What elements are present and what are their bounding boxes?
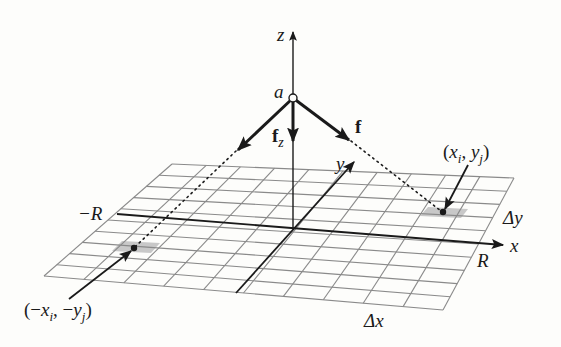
delta-y-label: Δy: [502, 207, 523, 228]
f-vector-mirror: [238, 98, 293, 150]
neg-R-label: −R: [78, 203, 103, 224]
R-label: R: [476, 250, 489, 271]
grid-plane: [44, 164, 514, 310]
paren-close: ): [483, 141, 489, 163]
dot-negative: [131, 245, 137, 251]
point-a: [289, 94, 297, 102]
grid-column-line: [44, 164, 172, 276]
sep: ,: [461, 141, 471, 162]
point-a-label: a: [274, 81, 284, 102]
pointer-arrow-negative: [69, 251, 131, 299]
y-var: y: [71, 299, 82, 320]
point-negative-label: (−xi, −yj): [24, 299, 92, 324]
diagram-canvas: z a f fz y x −R R Δy Δx (xi, yj) (−xi, −…: [0, 0, 561, 347]
fz-label: fz: [272, 125, 284, 150]
y-var: y: [469, 141, 480, 162]
x-axis-label: x: [509, 235, 519, 256]
paren-close: ): [85, 299, 91, 321]
paren-open: (−: [24, 299, 41, 321]
delta-x-label: Δx: [363, 310, 384, 331]
sep: , −: [53, 299, 73, 320]
f-vector: [293, 98, 349, 140]
x-axis: [117, 214, 503, 245]
grid-column-line: [443, 178, 514, 310]
fz-subscript: z: [277, 135, 284, 150]
z-axis-label: z: [276, 24, 285, 45]
dot-positive: [440, 209, 446, 215]
y-axis-label: y: [334, 153, 345, 174]
point-positive-label: (xi, yj): [443, 141, 489, 166]
f-label: f: [355, 116, 362, 137]
